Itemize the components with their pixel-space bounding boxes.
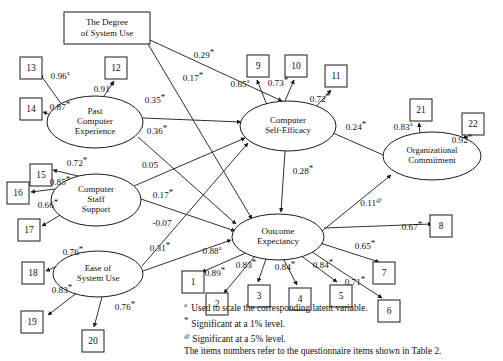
coefficient-value: 0.83 [236,260,252,270]
latent-node-label-line1: Organizational [407,145,459,155]
observed-node-item-12: 12 [105,57,127,79]
legend-mark-symbol: a [184,299,189,310]
coefficient-significance-mark: * [169,187,174,197]
coefficient-past-exp-to-outcome: 0.36* [147,123,168,136]
coefficient-value: 0.11 [360,198,376,208]
coefficient-value: 0.66 [38,200,54,210]
edge-self-efficacy-to-org-commit [333,133,390,158]
edge-ease-item19 [48,292,78,315]
coefficient-significance-mark: * [199,70,204,80]
observed-node-label: 13 [26,63,36,73]
observed-node-label: 10 [291,61,301,71]
figure-legend: a Used to scale the corresponding latent… [184,299,500,357]
observed-node-degree-of-system-use: The Degreeof System Use [64,12,150,44]
observed-node-item-21: 21 [410,99,432,121]
coefficient-value: 0.36 [147,126,163,136]
observed-node-item-17: 17 [18,219,40,241]
coefficient-significance-mark: * [362,119,367,129]
coefficient-significance-mark: * [83,155,88,165]
coefficient-value: 0.28 [293,166,309,176]
observed-node-label: 7 [382,268,387,278]
latent-node-computer-self-efficacy: ComputerSelf-Efficacy [240,101,336,151]
coefficient-value: 0.87 [50,102,66,112]
legend-text: Used to scale the corresponding latent v… [191,303,367,313]
observed-node-item-19: 19 [21,311,43,333]
coefficient-significance-mark: * [161,92,166,102]
edge-outcome-item3 [258,259,266,282]
legend-text: Significant at a 5% level. [192,334,286,344]
legend-mark-symbol: @ [184,330,190,341]
coefficient-significance-mark: * [68,282,73,292]
coefficient-staff-support-to-self-efficacy: 0.05 [142,160,158,170]
observed-node-label: 15 [36,170,46,180]
latent-node-label-line1: Ease of [85,263,112,273]
coefficient-value: -0.07 [152,218,172,228]
latent-node-label-line3: Support [82,204,111,214]
observed-node-item-7: 7 [373,262,395,284]
observed-node-item-14: 14 [20,98,42,120]
coefficient-outcome-to-item7: 0.65* [355,238,376,251]
coefficient-significance-mark: a [67,69,70,76]
observed-node-label: 19 [27,317,37,327]
sem-path-diagram-figure: The Degreeof System Use13121415161718192… [0,0,503,361]
coefficient-degree-to-outcome: 0.17* [183,70,204,83]
legend-text: Significant at a 1% level. [191,319,285,329]
observed-node-label: 17 [24,225,34,235]
coefficient-value: 0.85 [50,177,66,187]
coefficient-self-efficacy-to-outcome: 0.28* [293,163,314,176]
coefficient-significance-mark: * [210,47,215,57]
latent-node-layer: PastComputerExperienceComputerStaffSuppo… [47,96,481,297]
coefficient-self-efficacy-to-org-commit: 0.24* [346,119,367,132]
coefficient-value: 0.76 [115,302,131,312]
coefficient-outcome-to-item3: 0.83* [236,257,257,270]
latent-node-label-line2: System Use [77,273,120,283]
latent-node-label-line2: Staff [87,194,104,204]
coefficient-self-efficacy-to-item11: 0.72* [310,91,331,104]
coefficient-value: 0.96 [51,71,67,81]
coefficient-significance-mark: * [361,274,366,284]
coefficient-value: 0.71 [345,277,361,287]
node-label-line1: The Degree [86,17,128,27]
coefficient-significance-mark: * [252,257,257,267]
coefficient-significance-mark: * [54,197,59,207]
coefficient-value: 0.83 [394,122,410,132]
observed-node-label: 1 [191,277,196,287]
coefficient-value: 0.89 [205,268,221,278]
coefficient-significance-mark: * [418,219,423,229]
observed-node-item-16: 16 [7,182,29,204]
latent-node-label-line1: Past [87,106,103,116]
coefficient-value: 0.35 [145,95,161,105]
observed-node-label: 22 [468,119,478,129]
coefficient-past-exp-to-self-efficacy: 0.35* [145,92,166,105]
latent-node-label-line2: Expectancy [257,236,299,246]
coefficient-value: 0.31 [150,243,166,253]
legend-line-4: The items numbers refer to the questionn… [184,346,500,357]
latent-node-label-line2: Computer [77,116,113,126]
observed-node-item-18: 18 [22,262,44,284]
coefficient-self-efficacy-to-item9: 0.65a [231,77,250,89]
observed-node-label: 11 [331,71,340,81]
coefficient-significance-mark: @ [376,196,382,203]
latent-node-label-line3: Experience [75,126,115,136]
edge-past-exp-to-outcome [138,137,236,224]
coefficient-outcome-to-item4: 0.84* [275,259,296,272]
coefficient-value: 0.72 [67,158,83,168]
coefficient-significance-mark: a [247,77,250,84]
observed-node-label: 14 [26,104,36,114]
coefficient-outcome-to-item1: 0.88a [203,244,222,256]
observed-node-label: 12 [111,63,121,73]
observed-node-item-11: 11 [325,65,347,87]
coefficient-significance-mark: * [329,257,334,267]
legend-line-1: a Used to scale the corresponding latent… [184,299,500,315]
edge-staff-item17 [42,214,62,226]
coefficient-value: 0.73 [268,78,284,88]
coefficient-staff-support-to-item15: 0.72* [67,155,88,168]
coefficient-significance-mark: * [468,132,473,142]
coefficient-value: 0.83 [52,285,68,295]
coefficient-significance-mark: * [79,244,84,254]
coefficient-significance-mark: * [110,81,115,91]
coefficient-value: 0.17 [153,190,169,200]
coefficient-value: 0.76 [63,247,79,257]
latent-node-label-line1: Outcome [262,226,295,236]
coefficient-ease-to-outcome: 0.31* [150,240,171,253]
